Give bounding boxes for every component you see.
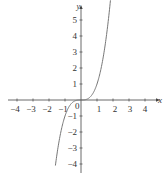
x-tick-label: 3 <box>128 104 133 114</box>
origin-label: 0 <box>75 101 80 111</box>
x-tick-label: 2 <box>113 104 118 114</box>
y-tick-labels: 5 4 3 2 1 −1 −2 −3 −4 <box>67 15 77 169</box>
y-tick-label: 5 <box>73 15 78 25</box>
y-axis-label: y <box>75 2 80 11</box>
x-tick-label: 4 <box>143 104 148 114</box>
y-axis <box>79 5 82 173</box>
x-tick-label: −2 <box>42 104 52 114</box>
x-tick-label: 1 <box>97 104 102 114</box>
y-tick-label: 1 <box>73 79 78 89</box>
cubic-curve <box>55 0 110 165</box>
y-tick-label: 2 <box>73 63 78 73</box>
y-tick-label: −3 <box>67 143 77 153</box>
x-tick-label: −3 <box>26 104 36 114</box>
y-tick-label: 4 <box>73 31 78 41</box>
x-tick-label: −4 <box>10 104 20 114</box>
y-tick-label: 3 <box>73 47 78 57</box>
cubic-function-plot: x −4 −3 −2 −1 1 2 3 4 0 y 5 4 3 2 1 −1 −… <box>0 0 163 175</box>
y-tick-label: −4 <box>67 159 77 169</box>
y-tick-label: −1 <box>67 111 77 121</box>
x-axis-label: x <box>157 95 162 105</box>
y-tick-label: −2 <box>67 127 77 137</box>
